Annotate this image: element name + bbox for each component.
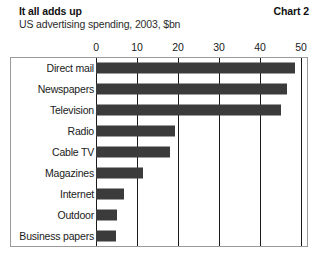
chart-figure: It all adds up US advertising spending, … xyxy=(0,0,318,261)
bar-outdoor xyxy=(96,209,117,220)
x-tick-10: 10 xyxy=(131,41,142,53)
category-label-newspapers: Newspapers xyxy=(38,83,94,95)
category-label-business-papers: Business papers xyxy=(19,230,94,242)
bar-business-papers xyxy=(96,230,116,241)
bar-row: Television xyxy=(0,100,318,121)
bar-row: Direct mail xyxy=(0,58,318,79)
bar-rows: Direct mailNewspapersTelevisionRadioCabl… xyxy=(0,58,318,246)
x-tick-20: 20 xyxy=(172,41,183,53)
bar-row: Radio xyxy=(0,121,318,142)
bar-row: Business papers xyxy=(0,225,318,246)
chart-header: It all adds up US advertising spending, … xyxy=(0,0,318,36)
category-label-direct-mail: Direct mail xyxy=(47,62,94,74)
bar-newspapers xyxy=(96,84,287,95)
chart-title: It all adds up xyxy=(19,5,82,17)
bar-row: Internet xyxy=(0,183,318,204)
category-label-radio: Radio xyxy=(68,125,94,137)
bar-direct-mail xyxy=(96,63,295,74)
category-label-outdoor: Outdoor xyxy=(57,209,94,221)
chart-subtitle: US advertising spending, 2003, $bn xyxy=(19,18,180,30)
x-tick-50: 50 xyxy=(295,41,306,53)
bar-row: Outdoor xyxy=(0,204,318,225)
x-tick-40: 40 xyxy=(254,41,265,53)
bar-cable-tv xyxy=(96,147,170,158)
bar-row: Magazines xyxy=(0,162,318,183)
bar-magazines xyxy=(96,167,143,178)
category-label-magazines: Magazines xyxy=(45,167,94,179)
x-tick-30: 30 xyxy=(213,41,224,53)
category-label-television: Television xyxy=(50,104,94,116)
bar-row: Newspapers xyxy=(0,79,318,100)
category-label-internet: Internet xyxy=(60,188,94,200)
x-tick-0: 0 xyxy=(93,41,99,53)
bar-radio xyxy=(96,126,175,137)
category-label-cable-tv: Cable TV xyxy=(52,146,94,158)
bar-row: Cable TV xyxy=(0,142,318,163)
bar-television xyxy=(96,105,281,116)
chart-number-label: Chart 2 xyxy=(274,5,309,17)
bar-internet xyxy=(96,188,124,199)
